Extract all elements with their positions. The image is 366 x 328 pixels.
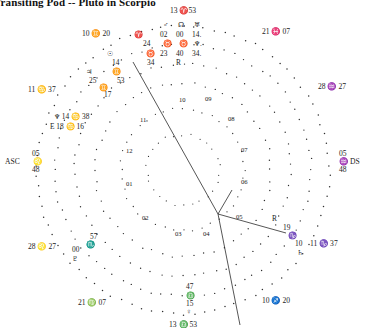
cusp-aquarius: 28 ♒ 27 — [318, 83, 346, 91]
gemini-sign-1: ♊ — [112, 68, 121, 76]
merc-min: 34 — [147, 59, 154, 67]
neptune-glyph: ♆. — [194, 40, 202, 48]
cusp-capricorn: 11 ♑ 37 — [310, 240, 338, 248]
cusp-ascendant-min: 48 — [32, 166, 40, 174]
uranus-glyph: ♅ — [194, 21, 200, 29]
venus-deg: 40 — [176, 50, 183, 58]
page-title: Transiting Pod -- Pluto in Scorpio — [0, 0, 156, 8]
jupiter-glyph: ♃ — [86, 68, 92, 76]
cusp-virgo: 21 ♍ 07 — [78, 299, 106, 307]
gemini-min: 17 — [104, 91, 111, 99]
house-number-10: 10 — [179, 96, 186, 104]
sun-deg: 14 — [112, 59, 119, 67]
cusp-gemini: 10 ♊ 20 — [82, 30, 110, 38]
house-number-08: 08 — [228, 115, 235, 123]
gemini-deg: 53 — [117, 77, 124, 85]
cusp-descendant-min: 48 — [339, 166, 347, 174]
taurus-sign-2: ♉ — [179, 40, 188, 48]
house-number-09: 09 — [205, 95, 212, 103]
cusp-leo: 28 ♌ 27 — [28, 243, 56, 251]
cusp-aries: 13 ♈53 — [170, 7, 196, 15]
scorpio-sign: ♏ — [86, 241, 95, 249]
cap-min: 10 — [295, 240, 302, 248]
sun-glyph: ☉ — [107, 50, 113, 58]
neptune-entry: ♆ 14 ♋ 38 — [54, 113, 89, 121]
node-deg: 00 — [176, 31, 183, 39]
jupiter-deg: 25 — [89, 77, 96, 85]
dotted-zodiac-rings — [35, 25, 331, 316]
cusp-libra-bottom: 13 ♎ 53 — [169, 321, 197, 328]
house-number-11: 11 — [140, 116, 146, 124]
house-number-02: 02 — [142, 214, 149, 222]
cusp-pisces: 21 ♓ 07 — [262, 28, 290, 36]
aries-min-1: 24 — [143, 40, 150, 48]
retrograde-r: R — [176, 59, 181, 67]
cusp-cancer: 11 ♋ 37 — [28, 86, 56, 94]
pluto-glyph: ♇ — [72, 255, 78, 263]
scorpio-deg: 00 — [72, 246, 79, 254]
mars-deg: 02 — [160, 31, 167, 39]
merc-deg: 23 — [160, 50, 167, 58]
astrology-chart-canvas: Transiting Pod -- Pluto in Scorpio 13 ♈5… — [0, 0, 366, 328]
cusp-ascendant-label: ASC — [5, 158, 20, 166]
house-number-03: 03 — [175, 230, 182, 238]
node-glyph: ☊ — [178, 21, 184, 29]
uranus-deg: 14. — [192, 31, 201, 39]
libra-min: 47 — [186, 283, 193, 291]
saturn-glyph: ♄ — [297, 249, 303, 257]
chiron-entry: E 18 ♋ 16 — [50, 123, 84, 131]
taurus-sign-3: ♉ — [146, 50, 155, 58]
pluto-deg: 34. — [192, 50, 201, 58]
mars-glyph: ♂ — [163, 21, 169, 29]
retro-mark: R — [272, 215, 277, 223]
house-number-05: 05 — [236, 213, 243, 221]
house-number-12: 12 — [126, 147, 133, 155]
house-number-01: 01 — [126, 180, 133, 188]
house-number-07: 07 — [241, 146, 248, 154]
aries-sign-1: ♈ — [134, 31, 143, 39]
cusp-sagittarius: 10 ♐ 20 — [262, 297, 290, 305]
house-number-04: 04 — [203, 230, 210, 238]
taurus-sign-1: ♉ — [163, 40, 172, 48]
venus-glyph: ♀ — [186, 308, 192, 316]
house-number-06: 06 — [241, 178, 248, 186]
